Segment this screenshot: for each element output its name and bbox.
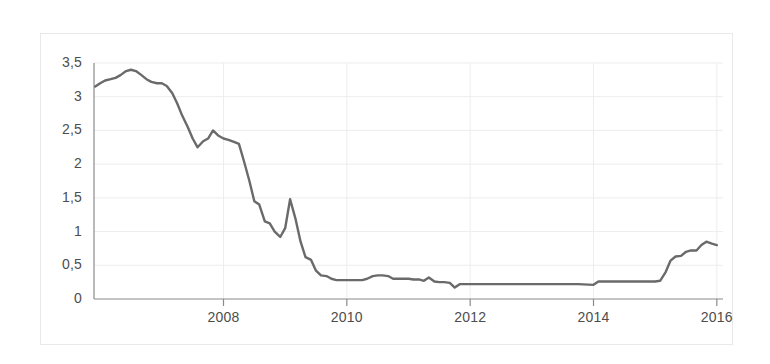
x-axis-tick-label: 2008 bbox=[194, 309, 254, 325]
y-axis-tick-label: 1 bbox=[36, 223, 82, 239]
chart-container: 00,511,522,533,5 20082010201220142016 bbox=[0, 0, 770, 364]
chart-plot-area bbox=[0, 0, 770, 364]
x-axis-tick-label: 2012 bbox=[440, 309, 500, 325]
y-axis-tick-label: 2,5 bbox=[36, 121, 82, 137]
y-axis-tick-label: 3,5 bbox=[36, 54, 82, 70]
y-axis-tick-label: 0,5 bbox=[36, 256, 82, 272]
x-axis-tick-label: 2010 bbox=[317, 309, 377, 325]
x-axis-tick-label: 2014 bbox=[564, 309, 624, 325]
y-axis-tick-label: 3 bbox=[36, 88, 82, 104]
x-axis-ticks bbox=[224, 299, 717, 306]
data-series-line bbox=[95, 70, 717, 288]
vertical-gridlines bbox=[224, 63, 717, 299]
x-axis-tick-label: 2016 bbox=[687, 309, 747, 325]
y-axis-tick-label: 0 bbox=[36, 290, 82, 306]
y-axis-tick-label: 1,5 bbox=[36, 189, 82, 205]
y-axis-tick-label: 2 bbox=[36, 155, 82, 171]
horizontal-gridlines bbox=[94, 63, 723, 265]
